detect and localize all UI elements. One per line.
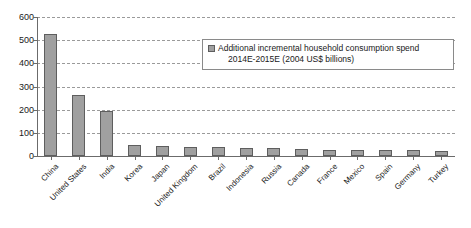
- bar: [184, 147, 197, 156]
- legend-label-line-2: 2014E-2015E (2004 US$ billions): [218, 54, 419, 65]
- y-axis-tick-label: 300: [4, 83, 34, 92]
- x-axis-tick-label: Japan: [150, 162, 172, 184]
- x-axis-tick-label: India: [97, 162, 116, 181]
- x-axis-tick-label: Turkey: [427, 162, 450, 185]
- bars-layer: [37, 17, 455, 156]
- bar: [100, 111, 113, 156]
- chart-legend: Additional incremental household consump…: [202, 39, 454, 70]
- y-axis-tick-label: 100: [4, 129, 34, 138]
- bar-chart: 0100200300400500600 ChinaUnited StatesIn…: [0, 0, 471, 228]
- bar: [295, 149, 308, 156]
- x-axis-tick-mark: [413, 156, 414, 160]
- bar: [267, 148, 280, 156]
- x-axis-tick-label: Indonesia: [224, 162, 255, 193]
- y-axis-tick-label: 500: [4, 36, 34, 45]
- x-axis-tick-label: Germany: [393, 162, 423, 192]
- x-axis-tick-label: China: [39, 162, 60, 183]
- bar: [156, 146, 169, 156]
- x-axis-tick-mark: [51, 156, 52, 160]
- y-axis-tick-label: 400: [4, 59, 34, 68]
- x-axis-tick-mark: [357, 156, 358, 160]
- x-axis-tick-mark: [190, 156, 191, 160]
- x-axis-tick-label: Brazil: [207, 162, 228, 183]
- y-axis-tick-label: 200: [4, 106, 34, 115]
- x-axis-tick-mark: [79, 156, 80, 160]
- x-axis-tick-mark: [441, 156, 442, 160]
- y-axis: 0100200300400500600: [0, 0, 34, 228]
- x-axis-tick-mark: [162, 156, 163, 160]
- x-axis-tick-mark: [330, 156, 331, 160]
- x-axis-tick-mark: [218, 156, 219, 160]
- x-axis-tick-label: Canada: [285, 162, 311, 188]
- y-axis-tick-label: 600: [4, 13, 34, 22]
- x-axis-tick-label: Russia: [260, 162, 284, 186]
- bar: [44, 34, 57, 156]
- x-axis-tick-mark: [246, 156, 247, 160]
- legend-label-line-1: Additional incremental household consump…: [218, 43, 419, 54]
- x-axis-tick-mark: [274, 156, 275, 160]
- x-axis-tick-mark: [302, 156, 303, 160]
- bar: [128, 145, 141, 156]
- x-axis-tick-label: Korea: [122, 162, 143, 183]
- x-axis-tick-label: Spain: [374, 162, 395, 183]
- legend-swatch-icon: [208, 45, 215, 52]
- y-axis-tick-label: 0: [4, 152, 34, 161]
- x-axis-tick-mark: [385, 156, 386, 160]
- x-axis-tick-label: Mexico: [343, 162, 367, 186]
- x-axis-tick-label: France: [315, 162, 339, 186]
- x-axis-tick-mark: [135, 156, 136, 160]
- bar: [240, 148, 253, 156]
- x-axis-tick-mark: [107, 156, 108, 160]
- legend-label: Additional incremental household consump…: [218, 43, 419, 65]
- bar: [72, 95, 85, 156]
- bar: [212, 147, 225, 156]
